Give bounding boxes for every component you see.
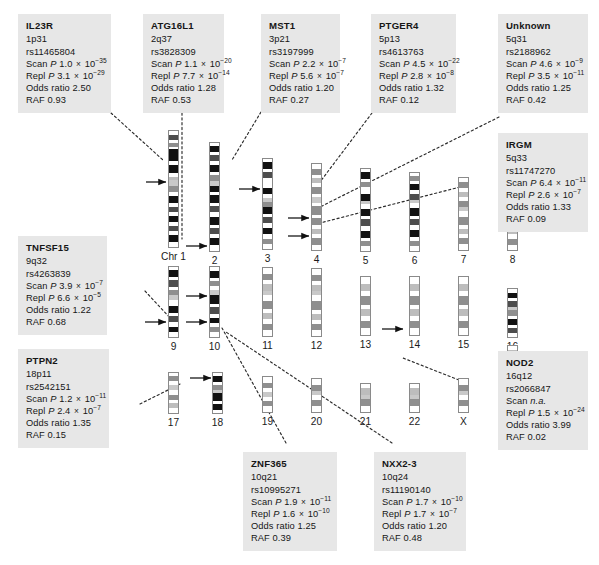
gene-name: NOD2 (506, 357, 581, 369)
gene-name: ZNF365 (251, 458, 330, 470)
gene-box-ptger4[interactable]: PTGER45p13rs4613763Scan P 4.5 × 10−22Rep… (371, 14, 456, 113)
raf: RAF 0.68 (26, 316, 100, 328)
chr10-label: 10 (198, 341, 232, 352)
cytoband: 10q21 (251, 471, 330, 483)
odds-ratio: Odds ratio 3.99 (506, 419, 581, 431)
raf: RAF 0.53 (151, 94, 217, 106)
snp-id: rs10995271 (251, 484, 330, 496)
gene-box-il23r[interactable]: IL23R1p31rs11465804Scan P 1.0 × 10−35Rep… (18, 14, 111, 113)
chr11-label: 11 (251, 340, 285, 351)
raf: RAF 0.42 (506, 94, 581, 106)
chr9-label: 9 (157, 341, 191, 352)
gene-name: IRGM (506, 139, 581, 151)
cytoband: 5p13 (379, 33, 449, 45)
chr4-label: 4 (300, 254, 334, 265)
stat-line: Repl P 3.5 × 10−11 (506, 70, 581, 82)
chr15-bands (458, 276, 469, 336)
chr17-bands (168, 372, 179, 414)
gene-box-znf365[interactable]: ZNF36510q21rs10995271Scan P 1.9 × 10−11R… (243, 452, 337, 551)
raf: RAF 0.39 (251, 532, 330, 544)
chr11-bands (262, 267, 273, 337)
stat-line: Scan P 1.7 × 10−10 (382, 496, 459, 508)
chr9-bands (168, 266, 179, 338)
stat-line: Repl P 1.5 × 10−24 (506, 407, 581, 419)
chr20-label: 20 (300, 416, 334, 427)
chr21-label: 21 (349, 416, 383, 427)
odds-ratio: Odds ratio 1.28 (151, 82, 217, 94)
gene-name: MST1 (269, 20, 333, 32)
cytoband: 16q12 (506, 370, 581, 382)
chr7-bands (458, 177, 469, 251)
chr6-bands (409, 172, 420, 252)
stat-line: Scan P 4.5 × 10−22 (379, 58, 449, 70)
stat-line: Repl P 2.4 × 10−7 (26, 405, 102, 417)
chr19-label: 19 (251, 416, 285, 427)
chr14-label: 14 (398, 339, 432, 350)
cytoband: 9q32 (26, 255, 100, 267)
stat-line: Repl P 6.6 × 10−5 (26, 292, 100, 304)
raf: RAF 0.27 (269, 94, 333, 106)
stat-line: Repl P 1.6 × 10−10 (251, 508, 330, 520)
chr5-label: 5 (349, 255, 383, 266)
raf: RAF 0.48 (382, 532, 459, 544)
chr5-bands (360, 168, 371, 252)
raf: RAF 0.02 (506, 431, 581, 443)
snp-id: rs4263839 (26, 268, 100, 280)
raf: RAF 0.93 (26, 94, 104, 106)
gene-name: Unknown (506, 20, 581, 32)
chr17-label: 17 (157, 417, 191, 428)
stat-line: Repl P 7.7 × 10−14 (151, 70, 217, 82)
chr4-bands (311, 163, 322, 251)
snp-id: rs3828309 (151, 46, 217, 58)
gene-box-irgm[interactable]: IRGM5q33rs11747270Scan P 6.4 × 10−11Repl… (498, 133, 588, 232)
chrX-bands (458, 378, 469, 413)
stat-line: Repl P 1.7 × 10−7 (382, 508, 459, 520)
leader-nod2 (403, 358, 459, 380)
cytoband: 18p11 (26, 368, 102, 380)
chr18-bands (212, 372, 223, 414)
leader-mst1 (232, 112, 261, 160)
odds-ratio: Odds ratio 1.32 (379, 82, 449, 94)
gene-box-unknown[interactable]: Unknown5q31rs2188962Scan P 4.6 × 10−9Rep… (498, 14, 588, 113)
stat-line: Repl P 5.6 × 10−7 (269, 70, 333, 82)
chr21-bands (360, 383, 371, 413)
chr7-label: 7 (447, 254, 481, 265)
chr8-label: 8 (496, 254, 530, 265)
cytoband: 5q31 (506, 33, 581, 45)
cytoband: 5q33 (506, 152, 581, 164)
gene-box-mst1[interactable]: MST13p21rs3197999Scan P 2.2 × 10−7Repl P… (261, 14, 340, 113)
stat-line: Scan P 4.6 × 10−9 (506, 58, 581, 70)
gene-box-ptpn2[interactable]: PTPN218p11rs2542151Scan P 1.2 × 10−11Rep… (18, 349, 109, 448)
chr20-bands (311, 378, 322, 413)
chr13-label: 13 (349, 339, 383, 350)
snp-id: rs2542151 (26, 381, 102, 393)
gene-name: NXX2-3 (382, 458, 459, 470)
leader-irgm (320, 187, 460, 223)
chr16-bands (507, 288, 518, 338)
chr15-label: 15 (447, 339, 481, 350)
scan-stat: Scan n.a. (506, 395, 581, 407)
odds-ratio: Odds ratio 1.22 (26, 304, 100, 316)
snp-id: rs4613763 (379, 46, 449, 58)
chr12-label: 12 (300, 340, 334, 351)
stat-line: Repl P 2.6 × 10−7 (506, 189, 581, 201)
raf: RAF 0.15 (26, 429, 102, 441)
chr13-bands (360, 276, 371, 336)
cytoband: 2q37 (151, 33, 217, 45)
chr1-label: Chr 1 (147, 251, 201, 262)
gene-name: PTGER4 (379, 20, 449, 32)
snp-id: rs3197999 (269, 46, 333, 58)
stat-line: Scan P 1.1 × 10−20 (151, 58, 217, 70)
gene-box-nod2[interactable]: NOD216q12rs2066847Scan n.a.Repl P 1.5 × … (498, 351, 588, 450)
snp-id: rs2066847 (506, 383, 581, 395)
figure-canvas: Chr 1 2 3 4 5 6 7 8 9 10 11 12 (0, 0, 599, 565)
odds-ratio: Odds ratio 2.50 (26, 82, 104, 94)
gene-name: PTPN2 (26, 355, 102, 367)
leader-il23r (111, 113, 163, 160)
gene-box-nxx23[interactable]: NXX2-310q24rs11190140Scan P 1.7 × 10−10R… (374, 452, 466, 551)
cytoband: 1p31 (26, 33, 104, 45)
stat-line: Scan P 3.9 × 10−7 (26, 280, 100, 292)
gene-box-atg16l1[interactable]: ATG16L12q37rs3828309Scan P 1.1 × 10−20Re… (143, 14, 224, 113)
gene-box-tnfsf15[interactable]: TNFSF159q32rs4263839Scan P 3.9 × 10−7Rep… (18, 236, 107, 335)
chr19-bands (262, 376, 273, 413)
